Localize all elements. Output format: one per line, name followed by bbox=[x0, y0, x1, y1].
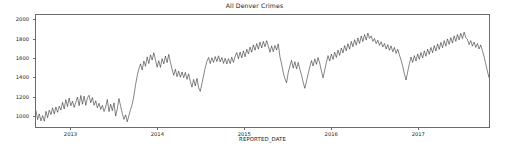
plot-area bbox=[35, 14, 490, 128]
y-tick-label: 1800 bbox=[0, 36, 33, 43]
y-tick-label: 1600 bbox=[0, 55, 33, 62]
x-tick-mark bbox=[331, 128, 332, 130]
y-tick-label: 2000 bbox=[0, 16, 33, 23]
x-tick-mark bbox=[244, 128, 245, 130]
series-line-all-denver-crimes bbox=[36, 15, 489, 127]
chart-figure: All Denver Crimes 1000120014001600180020… bbox=[0, 0, 509, 158]
y-axis-ticks: 100012001400160018002000 bbox=[0, 0, 35, 114]
y-tick-label: 1200 bbox=[0, 94, 33, 101]
chart-title: All Denver Crimes bbox=[0, 2, 509, 10]
x-axis-label: REPORTED_DATE bbox=[35, 136, 490, 143]
x-tick-mark bbox=[157, 128, 158, 130]
y-tick-label: 1400 bbox=[0, 74, 33, 81]
x-tick-mark bbox=[70, 128, 71, 130]
y-tick-label: 1000 bbox=[0, 113, 33, 120]
x-tick-mark bbox=[418, 128, 419, 130]
